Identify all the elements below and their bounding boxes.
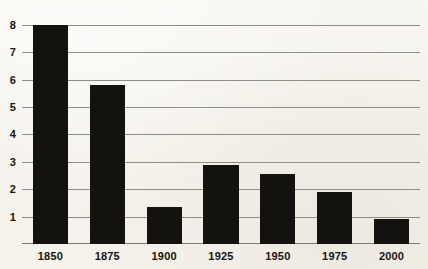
y-tick-label-8: 8 bbox=[10, 19, 16, 30]
x-tick-label-1900: 1900 bbox=[152, 251, 177, 262]
x-tick-label-1850: 1850 bbox=[38, 251, 63, 262]
bar-chart-figure: 12345678 1850187519001925195019752000 bbox=[0, 0, 428, 269]
x-tick-label-1975: 1975 bbox=[322, 251, 347, 262]
x-tick-label-1925: 1925 bbox=[208, 251, 233, 262]
y-tick-label-4: 4 bbox=[10, 129, 16, 140]
y-tick-label-6: 6 bbox=[10, 74, 16, 85]
y-tick-label-1: 1 bbox=[10, 211, 16, 222]
y-tick-label-3: 3 bbox=[10, 156, 16, 167]
y-tick-label-2: 2 bbox=[10, 184, 16, 195]
x-tick-label-1875: 1875 bbox=[95, 251, 120, 262]
x-tick-label-2000: 2000 bbox=[379, 251, 404, 262]
bars-layer bbox=[22, 14, 420, 244]
bar-1950 bbox=[260, 174, 295, 244]
bar-1900 bbox=[147, 207, 182, 244]
bar-1875 bbox=[90, 85, 125, 244]
bar-1850 bbox=[33, 25, 68, 244]
bar-1975 bbox=[317, 192, 352, 244]
y-tick-label-7: 7 bbox=[10, 47, 16, 58]
x-tick-label-1950: 1950 bbox=[265, 251, 290, 262]
bar-2000 bbox=[374, 219, 409, 244]
y-tick-label-5: 5 bbox=[10, 102, 16, 113]
plot-area: 12345678 1850187519001925195019752000 bbox=[22, 14, 420, 244]
bar-1925 bbox=[203, 165, 238, 244]
